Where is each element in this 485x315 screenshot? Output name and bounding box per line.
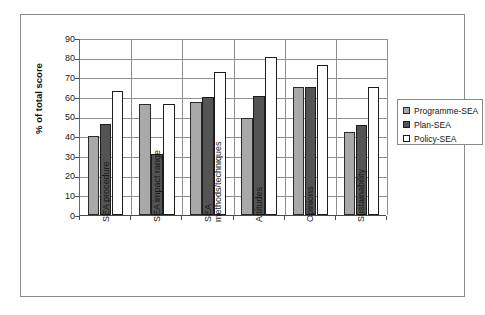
legend-item-policy[interactable]: Policy-SEA: [403, 132, 478, 145]
x-category-label-line: Attitudes: [254, 187, 264, 222]
bar-policy-1: [112, 91, 124, 215]
group-separator-3: [234, 39, 235, 215]
legend-item-programme[interactable]: Programme-SEA: [403, 104, 478, 117]
bar-programme-6: [344, 132, 356, 215]
legend-label-plan: Plan-SEA: [414, 120, 451, 130]
x-tick-mark-0: [79, 216, 80, 220]
bar-programme-5: [293, 87, 305, 215]
legend-label-programme: Programme-SEA: [414, 106, 478, 116]
legend-swatch-icon-programme: [403, 107, 410, 114]
x-category-label-4: Attitudes: [254, 187, 264, 222]
x-category-label-line: Sustainability: [356, 169, 366, 222]
group-separator-6: [387, 39, 388, 215]
group-separator-5: [336, 39, 337, 215]
bar-programme-1: [88, 136, 100, 215]
group-separator-2: [182, 39, 183, 215]
x-axis-tick-marks: [79, 216, 386, 221]
x-category-label-line: Opinions: [305, 186, 315, 222]
bar-programme-3: [190, 102, 202, 215]
x-category-label-line: SEA: [203, 141, 213, 222]
x-tick-mark-3: [233, 216, 234, 220]
x-category-label-1: SEA procedure: [101, 161, 111, 222]
x-tick-mark-6: [386, 216, 387, 220]
x-category-label-3: SEAmethods/techniques: [203, 141, 223, 222]
x-tick-mark-1: [130, 216, 131, 220]
x-tick-mark-2: [181, 216, 182, 220]
bar-programme-2: [139, 104, 151, 215]
x-category-label-2: SEA impact range: [152, 150, 162, 222]
group-separator-4: [285, 39, 286, 215]
legend-label-policy: Policy-SEA: [414, 134, 457, 144]
legend-swatch-icon-plan: [403, 121, 410, 128]
bar-policy-5: [317, 65, 329, 215]
x-tick-mark-5: [335, 216, 336, 220]
x-tick-mark-4: [284, 216, 285, 220]
bar-policy-2: [163, 104, 175, 215]
x-category-label-line: SEA procedure: [101, 161, 111, 222]
legend-swatch-icon-policy: [403, 135, 410, 142]
bar-policy-6: [368, 87, 380, 215]
group-separator-1: [131, 39, 132, 215]
chart-canvas: % of total score 0102030405060708090 SEA…: [0, 0, 485, 315]
plot-area: [79, 39, 386, 216]
x-category-label-6: Sustainability: [356, 169, 366, 222]
x-category-label-5: Opinions: [305, 186, 315, 222]
bar-programme-4: [241, 118, 253, 215]
y-axis-tick-marks: [25, 39, 81, 216]
x-category-label-line: SEA impact range: [152, 150, 162, 222]
legend-item-plan[interactable]: Plan-SEA: [403, 118, 478, 131]
chart-outer-frame: % of total score 0102030405060708090 SEA…: [20, 14, 465, 297]
chart-legend: Programme-SEAPlan-SEAPolicy-SEA: [397, 99, 483, 145]
x-category-label-line: methods/techniques: [213, 141, 223, 222]
bar-policy-4: [265, 57, 277, 215]
